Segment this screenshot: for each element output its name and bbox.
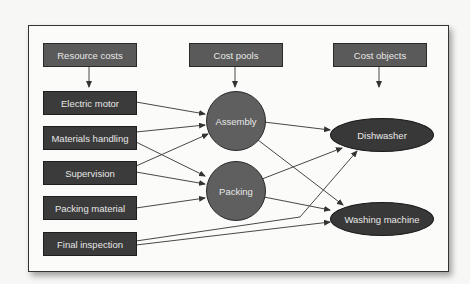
pool-assembly: Assembly: [206, 91, 266, 151]
resource-packing-material: Packing material: [43, 196, 137, 220]
object-washing-machine: Washing machine: [330, 202, 434, 236]
object-dishwasher: Dishwasher: [330, 118, 434, 152]
resource-materials-handling: Materials handling: [43, 126, 137, 150]
pool-packing: Packing: [206, 161, 266, 221]
header-cost-objects: Cost objects: [333, 43, 427, 67]
resource-electric-motor: Electric motor: [43, 91, 137, 115]
resource-final-inspection: Final inspection: [43, 232, 137, 256]
resource-supervision: Supervision: [43, 161, 137, 185]
header-cost-pools: Cost pools: [189, 43, 283, 67]
header-resource-costs: Resource costs: [43, 43, 137, 67]
